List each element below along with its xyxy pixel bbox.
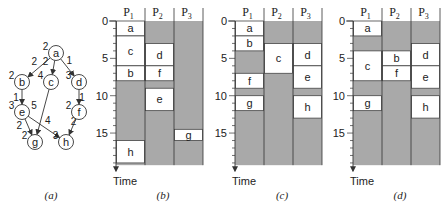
processor-header-p3: P3 — [181, 5, 192, 21]
processor-header-p2: P2 — [152, 5, 163, 21]
task-graph: 221115242a2b2c4d3e3f2g2h3(a) — [9, 41, 87, 202]
task-label: h — [127, 146, 133, 158]
gantt-charts: acbhdfegP1P2P3051015Time(b)abfgcdehP1P2P… — [96, 5, 440, 202]
processor-header-p2: P2 — [389, 5, 400, 21]
task-label: d — [304, 49, 310, 61]
tick-label: 15 — [333, 127, 345, 139]
node-label: d — [76, 76, 82, 88]
edge-a-c — [52, 60, 54, 74]
schedule-chart-b: acbhdfegP1P2P3051015Time(b) — [96, 5, 203, 202]
task-label: a — [246, 22, 253, 34]
idle-background — [353, 21, 440, 165]
task-label: g — [246, 97, 252, 109]
tick-label: 15 — [215, 127, 227, 139]
task-label: h — [422, 101, 428, 113]
node-weight-label: 2 — [22, 130, 28, 141]
processor-header-p3: P3 — [418, 5, 429, 21]
tick-label: 0 — [102, 15, 108, 27]
edge-c-g — [37, 89, 49, 134]
edge-weight-label: 2 — [31, 56, 37, 67]
tick-label: 5 — [102, 52, 108, 64]
task-label: a — [127, 22, 134, 34]
caption-d: (d) — [394, 189, 407, 202]
edge-weight-label: 1 — [79, 92, 85, 103]
processor-header-p1: P1 — [360, 5, 371, 21]
caption-a: (a) — [45, 189, 58, 202]
node-label: c — [48, 76, 54, 88]
node-weight-label: 2 — [43, 41, 49, 52]
task-label: c — [128, 45, 134, 57]
node-weight-label: 3 — [9, 100, 15, 111]
edge-weight-label: 5 — [31, 100, 37, 111]
task-label: d — [156, 49, 162, 61]
task-label: b — [393, 52, 399, 64]
task-label: e — [156, 93, 162, 105]
schedule-chart-c: abfgcdehP1P2P3051015Time(c) — [215, 5, 322, 202]
tick-label: 5 — [339, 52, 345, 64]
task-label: c — [365, 60, 371, 72]
tick-label: 10 — [96, 90, 108, 102]
tick-label: 10 — [333, 90, 345, 102]
node-label: b — [19, 76, 25, 88]
figure-canvas: 221115242a2b2c4d3e3f2g2h3(a) acbhdfegP1P… — [0, 0, 445, 212]
task-label: a — [364, 22, 371, 34]
node-weight-label: 4 — [38, 70, 44, 81]
task-label: b — [127, 67, 133, 79]
time-axis-label: Time — [113, 175, 137, 187]
node-weight-label: 2 — [9, 70, 15, 81]
tick-label: 10 — [215, 90, 227, 102]
tick-label: 0 — [221, 15, 227, 27]
processor-header-p1: P1 — [123, 5, 134, 21]
task-label: d — [422, 49, 428, 61]
node-weight-label: 2 — [66, 100, 72, 111]
edge-weight-label: 4 — [45, 115, 51, 126]
processor-header-p2: P2 — [271, 5, 282, 21]
processor-header-p3: P3 — [300, 5, 311, 21]
processor-header-p1: P1 — [242, 5, 253, 21]
edge-weight-label: 1 — [67, 55, 73, 66]
task-label: c — [276, 52, 282, 64]
schedule-chart-d: acgbfdehP1P2P3051015Time(d) — [333, 5, 440, 202]
caption-c: (c) — [276, 189, 289, 202]
task-label: g — [364, 97, 370, 109]
task-label: h — [304, 101, 310, 113]
time-axis-label: Time — [232, 175, 256, 187]
task-label: e — [422, 71, 428, 83]
node-weight-label: 3 — [66, 70, 72, 81]
tick-label: 5 — [221, 52, 227, 64]
task-label: b — [246, 37, 252, 49]
caption-b: (b) — [157, 189, 170, 202]
tick-label: 15 — [96, 127, 108, 139]
node-label: g — [32, 136, 38, 148]
task-label: g — [185, 129, 191, 141]
node-label: e — [19, 106, 25, 118]
tick-label: 0 — [339, 15, 345, 27]
node-label: a — [53, 47, 60, 59]
edge-weight-label: 2 — [43, 56, 49, 67]
node-weight-label: 3 — [53, 130, 59, 141]
time-axis-label: Time — [350, 175, 374, 187]
node-label: h — [63, 136, 69, 148]
task-label: e — [304, 71, 310, 83]
